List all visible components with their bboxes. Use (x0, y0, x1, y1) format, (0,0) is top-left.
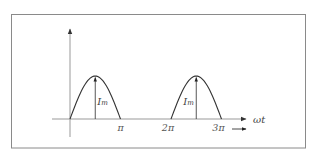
pulse-curves (70, 76, 222, 119)
amplitude-markers: ImIm (95, 78, 196, 120)
x-tick-labels: π2π3π (116, 122, 225, 133)
waveform-diagram: ωt ImIm π2π3π (0, 0, 314, 158)
diagram-frame (12, 15, 306, 149)
x-tick-label-2: 2π (161, 122, 175, 133)
x-tick-label-3: 3π (212, 122, 225, 133)
amplitude-label-2: Im (182, 96, 194, 107)
amplitude-label-1: Im (96, 96, 108, 107)
x-axis-label: ωt (253, 114, 266, 125)
x-tick-label-1: π (116, 122, 124, 133)
